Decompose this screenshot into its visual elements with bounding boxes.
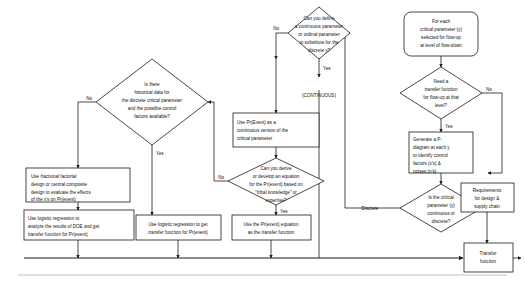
node-fractional-line-1: Use fractional factorial <box>31 174 76 179</box>
node-need-transfer-function[interactable]: Need a transfer function for flow-up at … <box>400 67 482 119</box>
node-define-line-2: a continuous parameter <box>295 24 344 29</box>
node-derive-line-4: "tribal knowledge" or <box>255 190 297 195</box>
node-is-critical-line-2: parameter (y) <box>427 203 455 208</box>
label-need-tf-yes: Yes <box>445 124 453 129</box>
node-define-line-4: to substitute for the <box>299 40 339 45</box>
label-need-tf-no: No <box>486 87 492 92</box>
node-use-pr-event-continuous[interactable]: Use Pr(Event) as a continuous version of… <box>233 113 319 147</box>
node-p-diagram-line-4: factors (x's) & <box>413 161 441 166</box>
node-can-you-define[interactable]: Can you define a continuous parameter or… <box>288 7 350 59</box>
node-define-line-1: Can you define <box>304 16 335 21</box>
edge-historical-no-down <box>78 102 96 168</box>
node-start-line-2: critical parameter (y) <box>420 27 462 32</box>
edge-is-critical-discrete-to-define <box>345 33 400 208</box>
label-derive-no: No <box>218 175 224 180</box>
node-generate-p-diagram[interactable]: Generate a P- diagram at each y to ident… <box>409 132 473 174</box>
node-historical-line-2: historical data for <box>135 90 170 95</box>
node-logistic-doe-line-1: Use logistic regression to <box>28 216 80 221</box>
node-use-pr-event-line-2: continuous version of the <box>237 128 289 133</box>
node-requirements-line-2: for design & <box>475 196 500 201</box>
node-start-line-4: at level of flow-down <box>420 43 462 48</box>
node-need-tf-line-1: Need a <box>434 79 449 84</box>
node-derive-line-1: Can you derive <box>261 166 292 171</box>
node-requirements[interactable]: Requirements for design & supply chain <box>461 183 514 212</box>
node-requirements-line-3: supply chain <box>474 204 500 209</box>
node-need-tf-line-2: transfer function <box>425 87 458 92</box>
node-equation-line-2: as the transfer function <box>248 230 295 235</box>
node-derive-line-2: or develop an equation <box>253 174 300 179</box>
flowchart-diagram: For each critical parameter (y) selected… <box>0 0 525 282</box>
node-start-line-1: For each <box>432 19 451 24</box>
node-need-tf-line-4: level? <box>435 103 447 108</box>
node-use-pr-event-line-3: critical parameter <box>237 136 273 141</box>
node-define-line-3: or ordinal parameter <box>298 32 340 37</box>
node-use-pr-event-line-1: Use Pr(Event) as a <box>237 120 276 125</box>
node-logistic-doe-line-2: analyze the results of DOE and get <box>28 224 100 229</box>
label-historical-yes: Yes <box>156 151 164 156</box>
node-use-logistic-get-tf[interactable]: Use logistic regression to get transfer … <box>136 215 221 240</box>
label-critical-discrete: Discrete <box>362 206 379 211</box>
label-define-yes: Yes <box>323 66 331 71</box>
node-define-line-5: discrete y? <box>308 48 331 53</box>
node-derive-line-5: expertise? <box>265 198 287 203</box>
label-derive-yes: Yes <box>280 209 288 214</box>
node-p-diagram-line-5: noises (n's) <box>413 169 437 174</box>
node-fractional-line-2: design or central composite <box>31 182 88 187</box>
node-fractional-line-4: of the x's on Pr(event) <box>31 197 76 202</box>
node-transfer-function-line-2: function <box>480 259 497 264</box>
node-is-critical-line-3: continuous or <box>427 211 455 216</box>
node-can-you-derive[interactable]: Can you derive or develop an equation fo… <box>228 158 324 205</box>
node-historical-line-4: and the possible control <box>128 106 177 111</box>
node-is-critical-line-1: Is the critical <box>428 195 454 200</box>
node-use-pr-event-equation[interactable]: Use the Pr(event) equation as the transf… <box>232 215 311 240</box>
edge-need-tf-no-to-requirements <box>482 93 502 173</box>
node-is-critical-line-4: discrete? <box>432 219 451 224</box>
node-equation-line-1: Use the Pr(event) equation <box>244 222 299 227</box>
node-transfer-function[interactable]: Transfer function <box>464 243 513 272</box>
edge-derive-no-to-historical <box>208 102 228 181</box>
node-historical-line-3: the discrete critical parameter <box>122 98 183 103</box>
node-p-diagram-line-2: diagram at each y <box>413 145 450 150</box>
node-logistic-get-tf-line-2: transfer function for Pr(event) <box>148 230 208 235</box>
edge-define-no-down <box>276 33 288 59</box>
node-p-diagram-line-1: Generate a P- <box>413 137 442 142</box>
node-logistic-get-tf-line-1: Use logistic regression to get <box>149 222 209 227</box>
label-define-no: No <box>273 26 279 31</box>
node-requirements-line-1: Requirements <box>473 188 502 193</box>
node-use-logistic-doe[interactable]: Use logistic regression to analyze the r… <box>24 210 134 240</box>
label-continuous-tag: (CONTINUOUS) <box>302 93 336 98</box>
label-historical-no: No <box>86 96 92 101</box>
node-historical-line-5: factors available? <box>134 114 170 119</box>
node-historical-line-1: Is there <box>144 82 160 87</box>
node-start[interactable]: For each critical parameter (y) selected… <box>404 12 478 56</box>
node-need-tf-line-3: for flow-up at that <box>423 95 459 100</box>
node-logistic-doe-line-3: transfer function for Pr(event) <box>28 232 88 237</box>
node-transfer-function-line-1: Transfer <box>480 251 497 256</box>
node-derive-line-3: for the Pr(event) based on <box>249 182 303 187</box>
node-p-diagram-line-3: to identify control <box>413 153 448 158</box>
node-fractional-line-3: design to evaluate the effects <box>31 190 91 195</box>
node-is-there-historical-data[interactable]: Is there historical data for the discret… <box>96 59 208 145</box>
flowchart-canvas: For each critical parameter (y) selected… <box>0 0 525 282</box>
node-start-line-3: selected for flow-up <box>421 35 461 40</box>
node-use-fractional-factorial[interactable]: Use fractional factorial design or centr… <box>26 168 130 202</box>
